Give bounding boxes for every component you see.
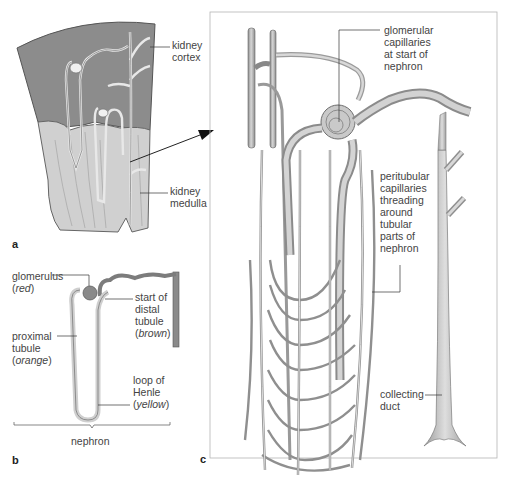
panel-letter-c: c	[200, 453, 206, 465]
panel-letter-a: a	[12, 238, 18, 250]
label-loop-of-henle: loop of Henle (yellow)	[133, 374, 169, 410]
label-proximal-tubule: proximal tubule (orange)	[12, 330, 52, 366]
label-nephron: nephron	[71, 435, 110, 447]
nephron-bracket	[14, 422, 170, 428]
label-kidney-cortex: kidney cortex	[172, 39, 202, 63]
arrowhead-icon	[198, 130, 214, 140]
label-distal-tubule: start of distal tubule (brown)	[135, 291, 171, 339]
color-note-orange: orange	[16, 354, 49, 366]
panel-letter-b: b	[12, 454, 19, 466]
label-glomerulus: glomerulus (red)	[12, 270, 63, 294]
label-peritubular-capillaries: peritubular capillaries threading around…	[380, 170, 430, 254]
glomerulus-small-1	[70, 63, 82, 73]
leader-peritubular	[372, 265, 400, 292]
color-note-brown: brown	[139, 327, 168, 339]
label-glomerular-capillaries: glomerular capillaries at start of nephr…	[384, 24, 434, 72]
color-note-red: red	[16, 282, 31, 294]
kidney-medulla-region	[38, 121, 150, 232]
label-collecting-duct: collecting duct	[380, 388, 424, 412]
nephron-detail-illustration	[245, 28, 470, 475]
label-kidney-medulla: kidney medulla	[170, 185, 207, 209]
glomerulus	[83, 286, 97, 300]
diagram-canvas	[0, 0, 514, 486]
collecting-duct	[424, 150, 466, 446]
glomerulus-small-2	[98, 109, 108, 117]
color-note-yellow: yellow	[137, 398, 166, 410]
